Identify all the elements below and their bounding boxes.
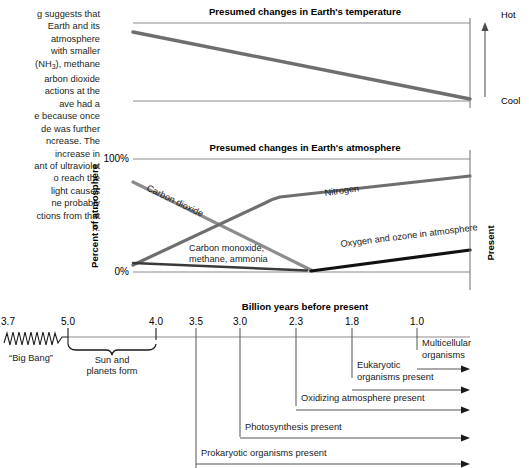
event-label-multicellular-line2: organisms [422, 350, 465, 360]
event-arrow-photosynthesis: Photosynthesis present [240, 422, 470, 441]
event-arrow-eukaryotic: Eukaryotic organisms present [352, 360, 470, 393]
diagram-canvas: Presumed changes in Earth's temperature … [0, 0, 529, 468]
nitrogen-label: Nitrogen [324, 183, 360, 198]
timeline-label-1-8: 1.8 [345, 316, 359, 327]
timeline-label-3-5: 3.5 [189, 316, 203, 327]
event-label-prokaryotic: Prokaryotic organisms present [201, 448, 327, 458]
event-arrow-multicellular: Multicellular organisms [417, 338, 471, 372]
event-arrow-prokaryotic: Prokaryotic organisms present [196, 448, 470, 467]
temperature-chart-title: Presumed changes in Earth's temperature [209, 6, 401, 17]
nitrogen-curve [133, 176, 470, 265]
atmosphere-chart-title: Presumed changes in Earth's atmosphere [209, 142, 400, 153]
present-axis-label: Present [485, 225, 496, 261]
sun-planets-label-line2: planets form [86, 366, 137, 376]
event-label-oxidizing: Oxidizing atmosphere present [301, 393, 425, 403]
event-label-eukaryotic-line1: Eukaryotic [357, 360, 401, 370]
event-label-multicellular-line1: Multicellular [422, 338, 471, 348]
hot-arrowhead [482, 22, 489, 31]
timeline-label-4-0: 4.0 [149, 316, 163, 327]
event-label-eukaryotic-line2: organisms present [357, 372, 434, 382]
figure-root: g suggests thatEarth and itsatmospherewi… [0, 0, 529, 468]
carbon-dioxide-label: Carbon dioxide [145, 183, 205, 219]
methane-ammonia-curve [133, 263, 307, 271]
oxygen-ozone-curve [311, 250, 470, 271]
event-arrow-oxidizing: Oxidizing atmosphere present [296, 393, 470, 413]
oxygen-ozone-label: Oxygen and ozone in atmosphere [340, 222, 478, 249]
atmosphere-y-axis-label: Percent of atmosphere [89, 164, 100, 268]
big-bang-label: “Big Bang” [9, 353, 53, 363]
atmosphere-ytick-0: 0% [115, 266, 130, 277]
temperature-cool-label: Cool [501, 95, 520, 106]
timeline-label-3-0: 3.0 [233, 316, 247, 327]
timeline-break-zigzag [4, 332, 68, 345]
timeline-label-5-0: 5.0 [61, 316, 75, 327]
sun-planets-brace [68, 344, 156, 355]
sun-planets-label-line1: Sun and [95, 355, 130, 365]
atmosphere-ytick-100: 100% [103, 153, 129, 164]
timeline-label-13-7: 3.7 [1, 316, 15, 327]
timeline-label-1-0: 1.0 [410, 316, 424, 327]
temperature-hot-label: Hot [501, 9, 516, 20]
temperature-curve [133, 32, 470, 99]
timeline-label-2-3: 2.3 [289, 316, 303, 327]
timeline-axis-title: Billion years before present [242, 301, 369, 312]
methane-ammonia-label-line2: methane, ammonia [189, 254, 269, 264]
event-label-photosynthesis: Photosynthesis present [245, 422, 342, 432]
methane-ammonia-label-line1: Carbon monoxide, [189, 243, 264, 253]
